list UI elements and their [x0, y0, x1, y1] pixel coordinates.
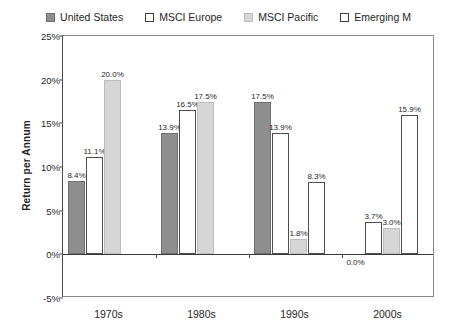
bar-value-label: 20.0% [94, 70, 131, 79]
y-tick-label-wrap: 0% [46, 249, 63, 260]
y-tick-label: 5% [46, 205, 63, 216]
bar-value-label: 15.9% [391, 105, 428, 114]
legend-label: United States [60, 12, 123, 23]
bar-value-label: 17.5% [187, 92, 224, 101]
bar [68, 181, 85, 254]
bar-value-label: 17.5% [244, 92, 281, 101]
x-axis-label: 1980s [187, 308, 216, 320]
y-tick-label-wrap: 25% [41, 31, 63, 42]
y-tick-label: 20% [41, 74, 63, 85]
y-axis-title: Return per Annum [21, 96, 32, 236]
bar-chart: United StatesMSCI EuropeMSCI PacificEmer… [0, 0, 457, 334]
bar-value-label: 8.3% [298, 172, 335, 181]
legend-entry-4[interactable]: Emerging M [340, 12, 411, 23]
y-tick-label-wrap: -5% [43, 293, 63, 304]
bar [161, 133, 178, 254]
bar [197, 102, 214, 255]
y-tick-label: 0% [46, 249, 63, 260]
legend-swatch-icon [145, 13, 154, 22]
y-tick-label-wrap: 15% [41, 118, 63, 129]
legend-swatch-icon [46, 13, 55, 22]
bar [401, 115, 418, 254]
x-tick-mark [249, 254, 250, 258]
legend-swatch-icon [340, 13, 349, 22]
y-tick-label-wrap: 5% [46, 205, 63, 216]
bar [383, 228, 400, 254]
legend-label: MSCI Pacific [258, 12, 318, 23]
y-tick-label: 15% [41, 118, 63, 129]
legend-label: MSCI Europe [159, 12, 222, 23]
legend-entry-1[interactable]: United States [46, 12, 123, 23]
y-tick-label: 25% [41, 31, 63, 42]
x-tick-mark [156, 254, 157, 258]
legend-entry-3[interactable]: MSCI Pacific [244, 12, 318, 23]
legend-entry-2[interactable]: MSCI Europe [145, 12, 222, 23]
plot-area: 25%20%15%10%5%0%-5%8.4%11.1%20.0%13.9%16… [62, 35, 434, 297]
bar-value-label: 13.9% [262, 123, 299, 132]
chart-legend: United StatesMSCI EuropeMSCI PacificEmer… [0, 7, 457, 27]
legend-swatch-icon [244, 13, 253, 22]
x-axis-label: 1970s [94, 308, 123, 320]
y-tick-label: -5% [43, 293, 63, 304]
bar-value-label: 0.0% [337, 258, 374, 267]
bar [86, 157, 103, 254]
bar [308, 182, 325, 254]
bar [290, 239, 307, 255]
x-axis-label: 2000s [373, 308, 402, 320]
legend-label: Emerging M [354, 12, 411, 23]
bar [104, 80, 121, 255]
bar [179, 110, 196, 254]
x-axis-label: 1990s [280, 308, 309, 320]
y-tick-label-wrap: 20% [41, 74, 63, 85]
